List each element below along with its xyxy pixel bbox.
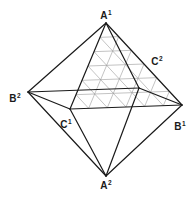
edge-a1-b2 (28, 23, 106, 92)
edge-a2-b1 (106, 105, 182, 176)
label-b1: B1 (174, 121, 185, 132)
label-a2: A2 (100, 180, 111, 191)
edge-a2-c2 (106, 88, 139, 176)
edge-c2-b2 (28, 88, 139, 92)
grid-line (89, 37, 119, 109)
grid-line (88, 66, 126, 107)
edge-a2-b2 (28, 92, 106, 176)
label-b2: B2 (9, 93, 20, 104)
grid-line (88, 64, 144, 66)
edge-c1-b1 (70, 105, 182, 109)
label-c1: C1 (60, 119, 71, 130)
label-a1: A1 (100, 10, 111, 21)
face-grid (76, 37, 169, 109)
grid-line (76, 95, 89, 109)
edge-a1-c1 (70, 23, 106, 109)
label-c2: C2 (151, 56, 162, 67)
grid-line (100, 37, 119, 38)
grid-line (100, 37, 163, 105)
octahedron-diagram (0, 0, 196, 201)
edge-a1-b1 (106, 23, 182, 105)
edge-b2-c1 (28, 92, 70, 109)
grid-line (126, 64, 144, 107)
octahedron-edges (28, 23, 182, 176)
